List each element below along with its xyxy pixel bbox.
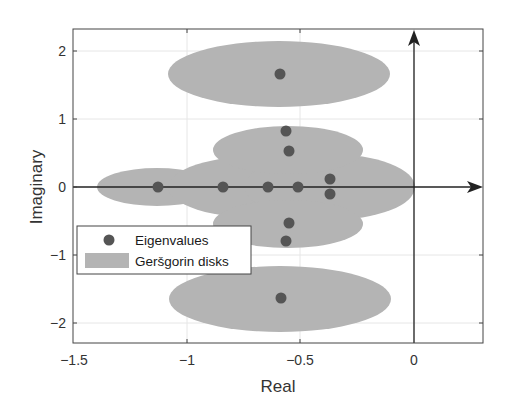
svg-text:−2: −2	[50, 315, 66, 331]
svg-text:2: 2	[58, 43, 66, 59]
legend: Eigenvalues Geršgorin disks	[77, 226, 251, 274]
eigenvalue-gershgorin-chart: 2 1 0 −1 −2 −1.5 −1 −0.5 0 Real Imaginar…	[0, 0, 512, 417]
legend-eigenvalues-label: Eigenvalues	[135, 233, 209, 248]
svg-text:0: 0	[410, 352, 418, 368]
svg-text:−0.5: −0.5	[286, 352, 314, 368]
y-axis-label: Imaginary	[27, 149, 46, 224]
eigenvalue-marker-icon	[104, 235, 115, 246]
disk-swatch-icon	[85, 253, 129, 268]
x-axis-label: Real	[261, 377, 296, 396]
svg-text:0: 0	[58, 179, 66, 195]
svg-text:−1: −1	[50, 247, 66, 263]
svg-text:−1: −1	[179, 352, 195, 368]
legend-disks-label: Geršgorin disks	[135, 254, 229, 269]
svg-text:−1.5: −1.5	[60, 352, 88, 368]
y-tick-labels: 2 1 0 −1 −2	[50, 43, 66, 331]
x-tick-labels: −1.5 −1 −0.5 0	[60, 352, 418, 368]
svg-text:1: 1	[58, 111, 66, 127]
